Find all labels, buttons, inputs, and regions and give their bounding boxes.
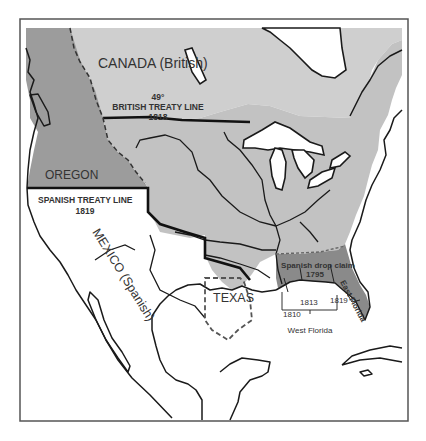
label-oregon: OREGON	[45, 168, 98, 182]
label-texas: TEXAS	[213, 291, 254, 305]
label-year-1813: 1813	[300, 298, 318, 307]
label-canada: CANADA (British)	[98, 55, 208, 71]
territorial-map: CANADA (British) 49° BRITISH TREATY LINE…	[0, 0, 426, 441]
label-west-florida: West Florida	[288, 326, 333, 335]
label-spanish-treaty-line: SPANISH TREATY LINE	[38, 195, 133, 205]
label-year-1819: 1819	[330, 296, 348, 305]
label-british-treaty-year: 1818	[149, 112, 168, 122]
label-parallel: 49°	[152, 92, 165, 102]
label-british-treaty-line: BRITISH TREATY LINE	[112, 102, 204, 112]
label-spanish-drop-claim: Spanish drop claim	[281, 261, 355, 270]
label-spanish-drop-claim-year: 1795	[306, 270, 324, 279]
label-spanish-treaty-year: 1819	[76, 206, 95, 216]
label-year-1810: 1810	[283, 310, 301, 319]
